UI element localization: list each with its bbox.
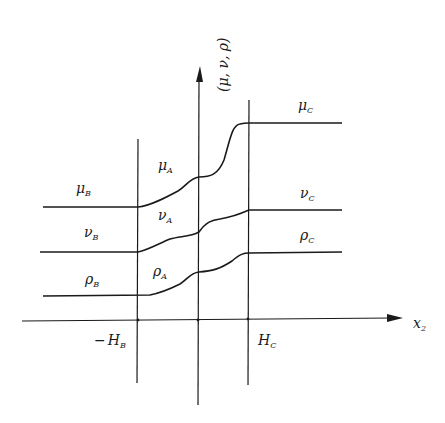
x-axis-label: x2 xyxy=(413,315,426,333)
y-axis-arrow-icon xyxy=(196,66,203,82)
y-axis-label: (μ, ν, ρ) xyxy=(215,37,231,92)
rho-a-label: ρA xyxy=(152,263,167,281)
left-marker-label: −HB xyxy=(94,332,126,350)
tick-right xyxy=(247,318,250,321)
mu-b-label: μB xyxy=(76,180,91,198)
mu-c-label: μC xyxy=(298,97,313,115)
mu-a-label: μA xyxy=(158,157,173,175)
right-marker-label: HC xyxy=(257,332,276,350)
x-axis xyxy=(22,318,392,321)
tick-origin xyxy=(197,319,200,322)
y-axis xyxy=(198,76,199,405)
nu-a-label: νA xyxy=(158,207,173,225)
rho-b-label: ρB xyxy=(84,271,99,289)
nu-b-label: νB xyxy=(84,224,99,242)
right-boundary-line xyxy=(248,100,249,385)
x-axis-arrow-icon xyxy=(387,314,403,322)
diagram-canvas: (μ, ν, ρ) x2 −HB HC μB μA μC νB νA νC ρB… xyxy=(0,0,445,423)
rho-c-label: ρC xyxy=(299,227,314,245)
nu-c-label: νC xyxy=(300,185,315,203)
left-boundary-line xyxy=(137,139,138,383)
tick-left xyxy=(137,319,140,322)
